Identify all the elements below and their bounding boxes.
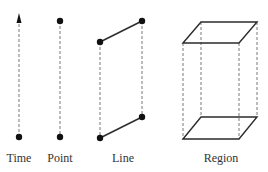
point-panel: Point — [47, 18, 73, 165]
time-origin-dot — [16, 134, 22, 140]
region-top-face — [183, 22, 257, 43]
region-bottom-face — [183, 117, 257, 139]
line-bottom-right-dot — [139, 114, 145, 120]
line-panel: Line — [97, 18, 145, 165]
line-label: Line — [112, 151, 134, 165]
line-top-left-dot — [97, 39, 103, 45]
arrowhead-icon — [17, 13, 22, 23]
point-label: Point — [47, 151, 73, 165]
time-label: Time — [7, 151, 32, 165]
point-top-dot — [57, 18, 63, 24]
time-point-line-region-diagram: Time Point Line Region — [0, 0, 268, 172]
point-bottom-dot — [57, 134, 63, 140]
region-label: Region — [204, 151, 239, 165]
line-bottom-segment — [100, 117, 142, 138]
time-panel: Time — [7, 13, 32, 165]
line-bottom-left-dot — [97, 135, 103, 141]
line-top-right-dot — [139, 18, 145, 24]
line-top-segment — [100, 21, 142, 42]
region-panel: Region — [183, 22, 257, 165]
